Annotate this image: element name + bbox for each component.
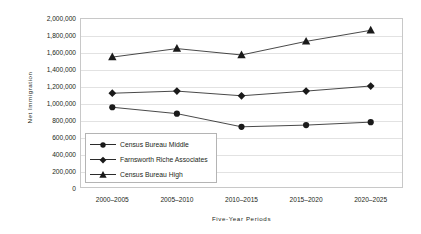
y-axis-tick-label: 2,000,000 bbox=[20, 15, 76, 22]
circle-marker bbox=[100, 142, 105, 147]
legend-label: Census Bureau High bbox=[120, 170, 183, 179]
legend-label: Farnsworth Riche Associates bbox=[120, 155, 208, 164]
y-axis-tick-label: 0 bbox=[20, 185, 76, 192]
legend-swatch bbox=[90, 154, 116, 166]
y-axis-tick-labels: 2,000,0001,800,0001,600,0001,400,0001,20… bbox=[18, 0, 76, 234]
gridline bbox=[81, 36, 402, 37]
legend-swatch bbox=[90, 169, 116, 181]
triangle-marker bbox=[99, 171, 106, 178]
y-axis-tick-label: 1,800,000 bbox=[20, 32, 76, 39]
y-axis-tick-label: 1,000,000 bbox=[20, 100, 76, 107]
x-axis-tick-label: 2005–2010 bbox=[142, 196, 212, 204]
y-axis-tick-label: 1,200,000 bbox=[20, 83, 76, 90]
legend-item[interactable]: Farnsworth Riche Associates bbox=[86, 152, 216, 167]
y-axis-tick-label: 1,600,000 bbox=[20, 49, 76, 56]
x-axis-title: Five-Year Periods bbox=[80, 215, 403, 222]
x-axis-tick-label: 2010–2015 bbox=[207, 196, 277, 204]
legend-label: Census Bureau Middle bbox=[120, 140, 189, 149]
y-axis-tick-label: 1,400,000 bbox=[20, 66, 76, 73]
diamond-marker bbox=[100, 156, 107, 163]
gridline bbox=[81, 104, 402, 105]
gridline bbox=[81, 70, 402, 71]
x-axis-tick-labels: 2000–20052005–20102010–20152015–20202020… bbox=[80, 196, 403, 208]
y-axis-tick-label: 200,000 bbox=[20, 168, 76, 175]
y-axis-tick-label: 400,000 bbox=[20, 151, 76, 158]
gridline bbox=[81, 87, 402, 88]
y-axis-tick-label: 800,000 bbox=[20, 117, 76, 124]
x-axis-tick-label: 2000–2005 bbox=[77, 196, 147, 204]
triangle-icon bbox=[99, 171, 107, 179]
x-axis-tick-label: 2020–2025 bbox=[336, 196, 406, 204]
circle-icon bbox=[99, 141, 107, 149]
legend-item[interactable]: Census Bureau Middle bbox=[86, 137, 216, 152]
diamond-icon bbox=[99, 156, 107, 164]
net-immigration-line-chart: Net Immigration 2,000,0001,800,0001,600,… bbox=[0, 0, 421, 234]
gridline bbox=[81, 121, 402, 122]
gridline bbox=[81, 53, 402, 54]
x-axis-tick-label: 2015–2020 bbox=[271, 196, 341, 204]
y-axis-tick-label: 600,000 bbox=[20, 134, 76, 141]
chart-legend: Census Bureau MiddleFarnsworth Riche Ass… bbox=[85, 133, 217, 183]
legend-item[interactable]: Census Bureau High bbox=[86, 167, 216, 182]
legend-swatch bbox=[90, 139, 116, 151]
